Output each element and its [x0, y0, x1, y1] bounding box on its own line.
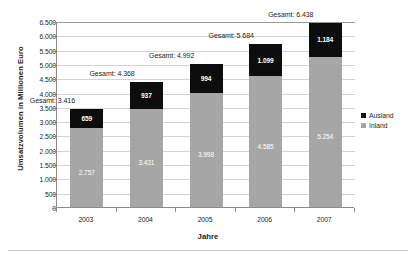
bar-value-label-ausland: 937 [141, 92, 152, 99]
y-axis-tick-label: 3.500 [12, 104, 56, 111]
y-axis-tick-label: 0 [12, 205, 56, 212]
legend-item-inland: Inland [361, 122, 394, 129]
bar-segment-ausland[interactable]: 659 [70, 109, 103, 128]
x-axis-tick-label-2006: 2006 [235, 216, 295, 223]
bar-stack-2007[interactable]: 1.1845.254 [309, 23, 342, 207]
bar-value-label-inland: 3.998 [198, 151, 214, 158]
y-axis-tick-label: 2.000 [12, 147, 56, 154]
y-axis-tick-label: 500 [12, 190, 56, 197]
bar-segment-ausland[interactable]: 937 [130, 82, 163, 109]
bar-stack-2004[interactable]: 9373.431 [130, 82, 163, 207]
total-label-2005: Gesamt: 4.992 [149, 52, 194, 59]
legend-label-ausland: Ausland [369, 112, 394, 119]
total-label-2004: Gesamt: 4.368 [89, 70, 134, 77]
bar-segment-ausland[interactable]: 994 [190, 64, 223, 92]
y-axis-tick-label: 1.500 [12, 162, 56, 169]
bar-segment-inland[interactable]: 2.757 [70, 128, 103, 207]
bar-stack-2005[interactable]: 9943.998 [190, 64, 223, 207]
y-axis-tick-label: 4.500 [12, 76, 56, 83]
x-axis-tick-mark [175, 208, 176, 212]
total-label-2003: Gesamt: 3.416 [30, 97, 75, 104]
total-label-2007: Gesamt: 6.438 [268, 11, 313, 18]
legend-swatch-ausland [361, 113, 366, 118]
y-axis-tick-label: 2.500 [12, 133, 56, 140]
x-axis-tick-mark [294, 208, 295, 212]
x-axis-tick-mark [354, 208, 355, 212]
bar-value-label-inland: 2.757 [79, 169, 95, 176]
bar-value-label-ausland: 1.184 [317, 36, 333, 43]
bar-segment-ausland[interactable]: 1.184 [309, 23, 342, 57]
bar-segment-inland[interactable]: 3.431 [130, 109, 163, 207]
bar-segment-ausland[interactable]: 1.099 [249, 44, 282, 75]
legend-swatch-inland [361, 123, 366, 128]
y-axis-tick-label: 5.000 [12, 61, 56, 68]
bar-value-label-ausland: 659 [81, 115, 92, 122]
bar-stack-2003[interactable]: 6592.757 [70, 109, 103, 207]
y-axis-tick-label: 5.500 [12, 47, 56, 54]
y-axis-tick-label: 1.000 [12, 176, 56, 183]
bar-segment-inland[interactable]: 3.998 [190, 93, 223, 207]
y-axis-tick-label: 6.000 [12, 33, 56, 40]
bar-value-label-inland: 4.585 [258, 143, 274, 150]
x-axis-tick-label-2005: 2005 [175, 216, 235, 223]
bar-value-label-ausland: 994 [201, 75, 212, 82]
plot-area: 6592.7579373.4319943.9981.0994.5851.1845… [56, 22, 354, 208]
bar-stack-2006[interactable]: 1.0994.585 [249, 44, 282, 207]
x-axis-tick-mark [116, 208, 117, 212]
bar-segment-inland[interactable]: 4.585 [249, 76, 282, 207]
y-axis-tick-label: 3.000 [12, 119, 56, 126]
y-axis-tick-label: 4.000 [12, 90, 56, 97]
total-label-2006: Gesamt: 5.684 [209, 32, 254, 39]
bottom-divider [8, 250, 408, 251]
chart-legend: Ausland Inland [361, 112, 394, 132]
bar-value-label-ausland: 1.099 [258, 57, 274, 64]
legend-label-inland: Inland [369, 122, 388, 129]
x-axis-tick-mark [235, 208, 236, 212]
x-axis-title: Jahre [0, 232, 416, 241]
x-axis-tick-mark [56, 208, 57, 212]
x-axis-tick-label-2007: 2007 [294, 216, 354, 223]
legend-item-ausland: Ausland [361, 112, 394, 119]
bar-segment-inland[interactable]: 5.254 [309, 57, 342, 207]
y-axis-tick-label: 6.500 [12, 19, 56, 26]
bar-value-label-inland: 3.431 [138, 159, 154, 166]
x-axis-tick-label-2004: 2004 [115, 216, 175, 223]
x-axis-tick-label-2003: 2003 [56, 216, 116, 223]
chart-figure: Umsatzvolumen in Millionen Euro 6.5006.0… [0, 0, 416, 259]
bar-value-label-inland: 5.254 [317, 133, 333, 140]
